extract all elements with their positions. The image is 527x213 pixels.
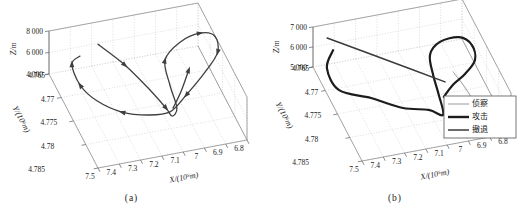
caption-b: (b): [263, 193, 527, 211]
arrowhead: [216, 49, 221, 56]
z-tick-label: 7 000: [290, 23, 307, 32]
x-tick-label: 7: [195, 152, 199, 161]
x-tick: [204, 148, 206, 152]
grid-line: [49, 25, 198, 53]
x-tick: [98, 168, 100, 172]
x-tick-label: 7.1: [170, 156, 180, 165]
y-tick: [333, 114, 337, 115]
x-tick: [447, 145, 449, 149]
z-axis-label: Z/m: [272, 41, 281, 54]
legend-label: 撤退: [472, 124, 488, 134]
y-tick: [69, 121, 73, 122]
z-tick: [309, 47, 313, 48]
grid-line: [74, 93, 223, 121]
x-tick-label: 7.5: [349, 165, 359, 174]
x-axis-label: X/(10⁵m): [419, 167, 450, 181]
x-tick: [362, 161, 364, 165]
grid-line: [49, 46, 198, 74]
y-tick-label: 4.765: [292, 64, 309, 73]
arrowhead: [185, 67, 190, 74]
series-trajectory: [72, 33, 218, 116]
x-tick-label: 7.3: [392, 157, 402, 166]
x-tick-label: 6.9: [477, 141, 487, 150]
arrowhead: [196, 31, 203, 36]
y-axis-label: Y/(10⁶m): [11, 105, 33, 135]
z-tick-label: 6 000: [290, 43, 307, 52]
box-edge: [462, 0, 511, 93]
z-axis-label: Z/m: [9, 43, 18, 56]
x-tick: [426, 149, 428, 153]
x-tick: [162, 156, 164, 160]
y-tick-label: 4.785: [292, 158, 309, 167]
z-tick-label: 8 000: [26, 27, 43, 36]
y-axis-label: Y/(10⁶m): [274, 101, 296, 131]
series-撤退: [327, 38, 445, 82]
box-edge: [313, 0, 462, 27]
caption-a: (a): [0, 193, 263, 211]
x-tick-label: 7.5: [85, 172, 95, 181]
x-tick-label: 6.8: [234, 144, 244, 153]
y-tick: [346, 138, 350, 139]
x-tick: [383, 157, 385, 161]
x-tick-label: 7.4: [107, 168, 117, 177]
grid-line: [86, 117, 235, 145]
z-tick: [45, 31, 49, 32]
x-tick: [468, 141, 470, 145]
y-tick-label: 4.765: [28, 71, 45, 80]
plot-3d-panel-b: 5 0006 0007 0004.7654.774.7754.784.7857.…: [263, 0, 527, 213]
x-tick-label: 7.1: [434, 149, 444, 158]
z-tick: [309, 27, 313, 28]
plot-3d-panel-a: 4 0006 0008 0004.7654.774.7754.784.7857.…: [0, 0, 263, 213]
arrowhead: [119, 111, 126, 116]
y-tick-label: 4.78: [41, 142, 54, 151]
z-tick-label: 6 000: [26, 48, 43, 57]
y-tick-label: 4.775: [40, 118, 57, 127]
legend-label: 攻击: [472, 111, 488, 121]
y-tick: [358, 161, 362, 162]
x-tick-label: 7: [459, 145, 463, 154]
y-tick-label: 4.77: [305, 88, 318, 97]
x-tick-label: 7.2: [149, 160, 159, 169]
y-tick-label: 4.77: [41, 95, 54, 104]
x-tick-label: 6.9: [213, 148, 223, 157]
box-edge: [49, 3, 198, 31]
y-tick: [82, 145, 86, 146]
z-tick: [45, 53, 49, 54]
x-tick: [141, 160, 143, 164]
x-tick-label: 7.3: [128, 164, 138, 173]
box-edge: [198, 3, 247, 97]
y-tick: [321, 91, 325, 92]
y-tick-label: 4.78: [305, 135, 318, 144]
y-tick: [57, 98, 61, 99]
x-tick-label: 7.2: [413, 153, 423, 162]
x-tick: [183, 152, 185, 156]
x-axis-label: X/(10⁵m): [168, 170, 199, 184]
y-tick-label: 4.775: [304, 111, 321, 120]
x-tick: [119, 164, 121, 168]
y-tick-label: 4.785: [28, 165, 45, 174]
figure-uav-trajectories: 4 0006 0008 0004.7654.774.7754.784.7857.…: [0, 0, 527, 213]
x-tick: [405, 153, 407, 157]
x-tick: [226, 144, 228, 148]
arrowhead: [162, 57, 167, 64]
x-tick-label: 7.4: [371, 161, 381, 170]
y-tick: [94, 168, 98, 169]
x-tick: [247, 140, 249, 144]
legend-label: 侦察: [472, 98, 488, 108]
